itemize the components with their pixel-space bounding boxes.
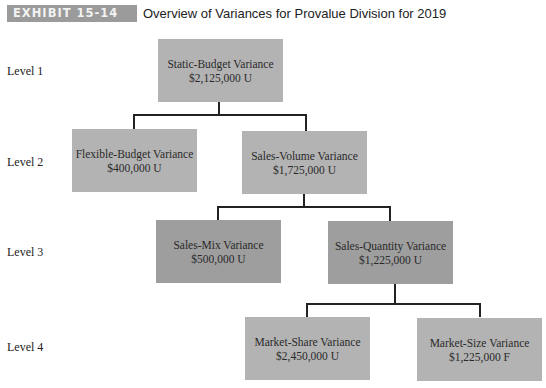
connector <box>217 206 219 220</box>
connector <box>479 303 481 317</box>
level-1-label: Level 1 <box>7 64 43 79</box>
connector <box>133 114 135 129</box>
connector <box>306 303 480 305</box>
sales-quantity-variance-box: Sales-Quantity Variance $1,225,000 U <box>328 221 453 284</box>
node-value: $1,225,000 F <box>449 350 510 364</box>
connector <box>303 193 305 207</box>
level-4-label: Level 4 <box>7 340 43 355</box>
node-value: $2,125,000 U <box>189 71 252 85</box>
level-2-label: Level 2 <box>7 155 43 170</box>
node-value: $2,450,000 U <box>276 349 339 363</box>
node-value: $500,000 U <box>191 252 245 266</box>
diagram-title: Overview of Variances for Provalue Divis… <box>143 5 446 22</box>
market-size-variance-box: Market-Size Variance $1,225,000 F <box>417 318 542 381</box>
market-share-variance-box: Market-Share Variance $2,450,000 U <box>245 317 370 380</box>
connector <box>306 303 308 317</box>
flexible-budget-variance-box: Flexible-Budget Variance $400,000 U <box>72 129 197 192</box>
node-name: Flexible-Budget Variance <box>76 147 194 161</box>
node-name: Market-Size Variance <box>430 336 530 350</box>
node-name: Static-Budget Variance <box>167 57 273 71</box>
node-value: $1,225,000 U <box>359 253 422 267</box>
connector <box>133 114 306 116</box>
connector <box>305 114 307 131</box>
sales-volume-variance-box: Sales-Volume Variance $1,725,000 U <box>242 131 367 194</box>
node-value: $1,725,000 U <box>273 163 336 177</box>
level-3-label: Level 3 <box>7 245 43 260</box>
node-name: Market-Share Variance <box>254 335 360 349</box>
node-name: Sales-Quantity Variance <box>335 239 446 253</box>
sales-mix-variance-box: Sales-Mix Variance $500,000 U <box>156 220 281 283</box>
connector <box>389 206 391 221</box>
connector <box>394 284 396 304</box>
static-budget-variance-box: Static-Budget Variance $2,125,000 U <box>158 39 283 102</box>
connector <box>217 206 390 208</box>
exhibit-badge: EXHIBIT 15-14 <box>7 5 137 22</box>
node-value: $400,000 U <box>107 161 161 175</box>
node-name: Sales-Mix Variance <box>173 238 263 252</box>
node-name: Sales-Volume Variance <box>251 149 358 163</box>
